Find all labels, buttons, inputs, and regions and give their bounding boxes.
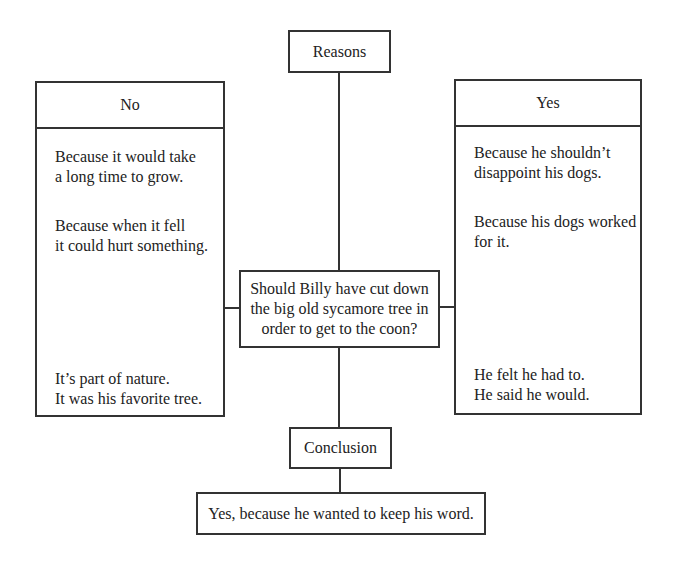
no-reason-2: Because when it fell it could hurt somet… — [55, 216, 208, 256]
yes-column: Yes Because he shouldn’t disappoint his … — [454, 79, 642, 415]
yes-reason-2: Because his dogs worked for it. — [474, 212, 636, 252]
no-heading-label: No — [120, 96, 140, 114]
no-reason-3: It’s part of nature. It was his favorite… — [55, 369, 202, 409]
no-heading: No — [37, 83, 223, 129]
conclusion-box: Conclusion — [289, 427, 392, 469]
no-reason-1: Because it would take a long time to gro… — [55, 147, 196, 187]
question-box: Should Billy have cut down the big old s… — [239, 270, 440, 348]
question-line-3: order to get to the coon? — [262, 319, 418, 339]
yes-reason-3: He felt he had to. He said he would. — [474, 365, 590, 405]
reasons-box: Reasons — [288, 30, 391, 73]
connector-conclusion-to-answer — [339, 467, 341, 493]
no-column: No Because it would take a long time to … — [35, 81, 225, 417]
conclusion-answer-box: Yes, because he wanted to keep his word. — [196, 492, 486, 535]
reasons-label: Reasons — [313, 43, 366, 61]
question-line-1: Should Billy have cut down — [250, 279, 429, 299]
yes-heading-label: Yes — [536, 94, 559, 112]
connector-reasons-to-question — [338, 71, 340, 271]
connector-no-to-question — [223, 307, 240, 309]
yes-heading: Yes — [456, 81, 640, 127]
question-line-2: the big old sycamore tree in — [250, 299, 428, 319]
conclusion-label: Conclusion — [304, 439, 377, 457]
conclusion-answer: Yes, because he wanted to keep his word. — [208, 505, 473, 523]
yes-reason-1: Because he shouldn’t disappoint his dogs… — [474, 143, 611, 183]
connector-question-to-conclusion — [338, 346, 340, 428]
